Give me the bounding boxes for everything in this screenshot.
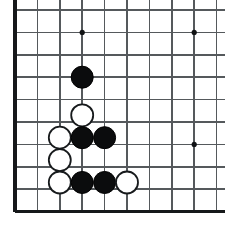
star-point-1 bbox=[192, 30, 197, 35]
white-stone-c5r8[interactable] bbox=[116, 171, 138, 193]
star-point-3 bbox=[192, 142, 197, 147]
star-point-0 bbox=[80, 30, 85, 35]
black-stone-c4r8[interactable] bbox=[94, 171, 116, 193]
black-stone-c3r8[interactable] bbox=[71, 171, 93, 193]
go-board-diagram bbox=[0, 0, 225, 243]
stones-group bbox=[49, 66, 138, 193]
white-stone-c2r7[interactable] bbox=[49, 149, 71, 171]
black-stone-c3r3[interactable] bbox=[71, 66, 93, 88]
black-stone-c4r6[interactable] bbox=[94, 127, 116, 149]
black-stone-c3r6[interactable] bbox=[71, 127, 93, 149]
white-stone-c2r8[interactable] bbox=[49, 171, 71, 193]
white-stone-c3r5[interactable] bbox=[71, 104, 93, 126]
white-stone-c2r6[interactable] bbox=[49, 127, 71, 149]
go-board-container bbox=[0, 0, 225, 243]
